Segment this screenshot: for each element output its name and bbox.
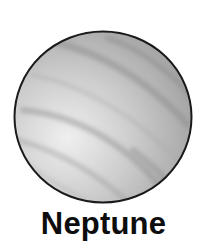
planet-illustration [13, 30, 193, 204]
planet-neptune-icon [13, 30, 193, 204]
planet-name-label: Neptune [0, 206, 207, 242]
